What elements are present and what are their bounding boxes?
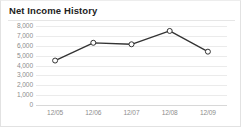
data-point-marker — [205, 49, 210, 54]
series-markers — [53, 28, 211, 63]
chart-card: Net Income History 01,0002,0003,0004,000… — [0, 0, 241, 127]
plot-area: 01,0002,0003,0004,0005,0006,0007,0008,00… — [1, 1, 241, 127]
data-point-marker — [91, 40, 96, 45]
data-point-marker — [129, 42, 134, 47]
line-series — [1, 1, 241, 127]
data-point-marker — [53, 58, 58, 63]
data-point-marker — [167, 28, 172, 33]
